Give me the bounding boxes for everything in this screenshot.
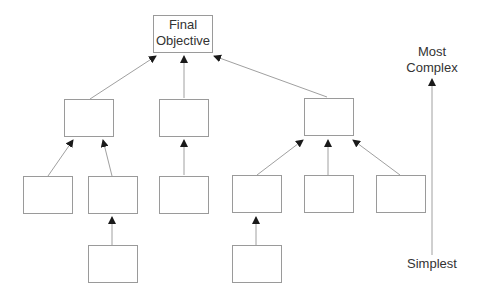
final-objective-label: Final Objective bbox=[153, 17, 213, 49]
subgoal-box-level2-2 bbox=[88, 176, 138, 214]
subgoal-box-level2-4 bbox=[232, 175, 282, 213]
axis-top-label-line2: Complex bbox=[402, 60, 462, 76]
axis-bottom-label: Simplest bbox=[400, 256, 464, 272]
subgoal-box-level2-3 bbox=[159, 176, 209, 214]
subgoal-box-level1-right bbox=[304, 98, 354, 136]
subgoal-box-level1-middle bbox=[159, 99, 209, 137]
subgoal-box-level1-left bbox=[64, 99, 114, 137]
subgoal-box-level2-1 bbox=[23, 176, 73, 214]
axis-top-label: Most Complex bbox=[402, 44, 462, 76]
subgoal-box-level3-1 bbox=[88, 245, 138, 283]
subgoal-box-level2-6 bbox=[376, 175, 426, 213]
subgoal-box-level2-5 bbox=[304, 175, 354, 213]
final-objective-label-line1: Final bbox=[153, 17, 213, 33]
final-objective-label-line2: Objective bbox=[153, 33, 213, 49]
axis-top-label-line1: Most bbox=[402, 44, 462, 60]
subgoal-box-level3-2 bbox=[232, 245, 282, 283]
